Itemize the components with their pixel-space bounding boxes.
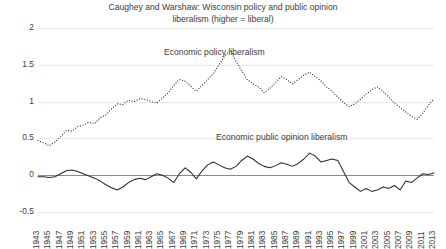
x-axis-tick-label: 1993: [315, 231, 324, 249]
x-axis-tick-label: 2003: [371, 231, 380, 249]
x-axis-tick-label: 1945: [43, 231, 52, 249]
x-axis-tick-label: 1959: [123, 231, 132, 249]
x-axis-tick-label: 1949: [66, 231, 75, 249]
series-label-economic-policy-liberalism: Economic policy liberalism: [164, 47, 265, 57]
y-axis-tick-label: 2: [2, 22, 34, 32]
x-axis-tick-label: 1989: [292, 231, 301, 249]
x-axis-tick-label: 1971: [190, 231, 199, 249]
x-axis-tick-label: 1979: [236, 231, 245, 249]
x-axis-tick-label: 2001: [360, 231, 369, 249]
x-axis-tick-label: 1973: [202, 231, 211, 249]
economic-public-opinion-liberalism-line: [38, 153, 434, 191]
x-axis-tick-label: 1977: [224, 231, 233, 249]
x-axis-tick-label: 1955: [100, 231, 109, 249]
x-axis-tick-label: 1983: [258, 231, 267, 249]
x-axis-tick-label: 1985: [270, 231, 279, 249]
x-axis-tick-label: 1965: [156, 231, 165, 249]
x-axis-tick-label: 1963: [145, 231, 154, 249]
chart-title: Caughey and Warshaw: Wisconsin policy an…: [0, 2, 446, 25]
y-axis-tick-label: -0.5: [2, 206, 34, 216]
x-axis-tick-label: 1943: [32, 231, 41, 249]
x-axis-tick-label: 1969: [179, 231, 188, 249]
x-axis-tick-label: 1961: [134, 231, 143, 249]
y-axis-tick-label: 1: [2, 96, 34, 106]
x-axis-tick-label: 1951: [77, 231, 86, 249]
x-axis-tick-label: 1975: [213, 231, 222, 249]
gridline: [38, 212, 434, 213]
y-axis-tick-label: 0.5: [2, 132, 34, 142]
x-axis-tick-label: 1987: [281, 231, 290, 249]
x-axis-tick-label: 1999: [349, 231, 358, 249]
x-axis-tick-label: 1957: [111, 231, 120, 249]
x-axis-labels: 1943194519471949195119531955195719591961…: [38, 214, 434, 249]
x-axis-tick-label: 1967: [168, 231, 177, 249]
x-axis-tick-label: 2013: [428, 231, 437, 249]
x-axis-tick-label: 1997: [337, 231, 346, 249]
x-axis-tick-label: 1991: [304, 231, 313, 249]
y-axis-labels: 21.510.50-0.5: [0, 28, 34, 212]
x-axis-tick-label: 1947: [55, 231, 64, 249]
chart-container: Caughey and Warshaw: Wisconsin policy an…: [0, 0, 446, 249]
x-axis-tick-label: 2011: [417, 231, 426, 249]
x-axis-tick-label: 2007: [394, 231, 403, 249]
x-axis-tick-label: 1981: [247, 231, 256, 249]
x-axis-tick-label: 1953: [89, 231, 98, 249]
y-axis-tick-label: 1.5: [2, 59, 34, 69]
y-axis-tick-label: 0: [2, 169, 34, 179]
x-axis-tick-label: 2009: [405, 231, 414, 249]
series-label-economic-public-opinion-liberalism: Economic public opinion liberalism: [216, 132, 347, 142]
x-axis-tick-label: 2005: [383, 231, 392, 249]
x-axis-tick-label: 1995: [326, 231, 335, 249]
